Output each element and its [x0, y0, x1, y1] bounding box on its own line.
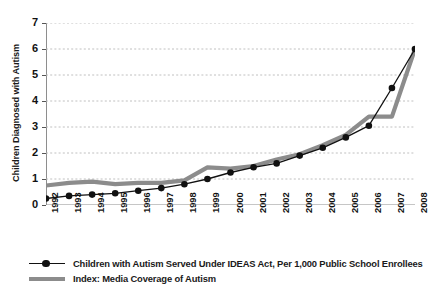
legend-marker-line-icon [28, 258, 66, 270]
data-point [273, 160, 280, 167]
data-point [89, 191, 96, 198]
data-point [319, 145, 326, 152]
y-tick-label: 5 [24, 68, 38, 80]
legend-item-children-autism: Children with Autism Served Under IDEAS … [28, 256, 428, 271]
data-point [181, 181, 188, 188]
data-point [112, 190, 119, 197]
y-tick-label: 2 [24, 146, 38, 158]
plot-area [46, 23, 415, 205]
y-tick-label: 4 [24, 94, 38, 106]
y-axis-title: Children Diagnosed with Autism [11, 13, 21, 213]
legend-label: Children with Autism Served Under IDEAS … [73, 258, 423, 269]
y-tick-label: 1 [24, 172, 38, 184]
data-point [46, 195, 49, 202]
legend-thick-line-icon [28, 273, 66, 285]
data-point [250, 164, 257, 171]
data-point [389, 85, 396, 92]
chart-legend: Children with Autism Served Under IDEAS … [28, 256, 428, 286]
data-point [66, 193, 73, 200]
y-tick-label: 7 [24, 16, 38, 28]
x-tick-label: 2008 [419, 192, 429, 213]
data-point [204, 176, 211, 183]
legend-item-media-coverage: Index: Media Coverage of Autism [28, 271, 428, 286]
legend-label: Index: Media Coverage of Autism [73, 273, 216, 284]
data-point [158, 185, 165, 192]
autism-chart: Children Diagnosed with Autism 01234567 … [0, 0, 434, 288]
data-point [227, 169, 234, 176]
series-line-media-coverage [46, 49, 415, 186]
data-point [296, 152, 303, 159]
y-tick-label: 3 [24, 120, 38, 132]
y-tick-label: 6 [24, 42, 38, 54]
data-point [135, 187, 142, 194]
data-point [366, 122, 373, 129]
chart-canvas [46, 23, 415, 205]
data-point [343, 134, 350, 141]
y-tick-label: 0 [24, 198, 38, 210]
